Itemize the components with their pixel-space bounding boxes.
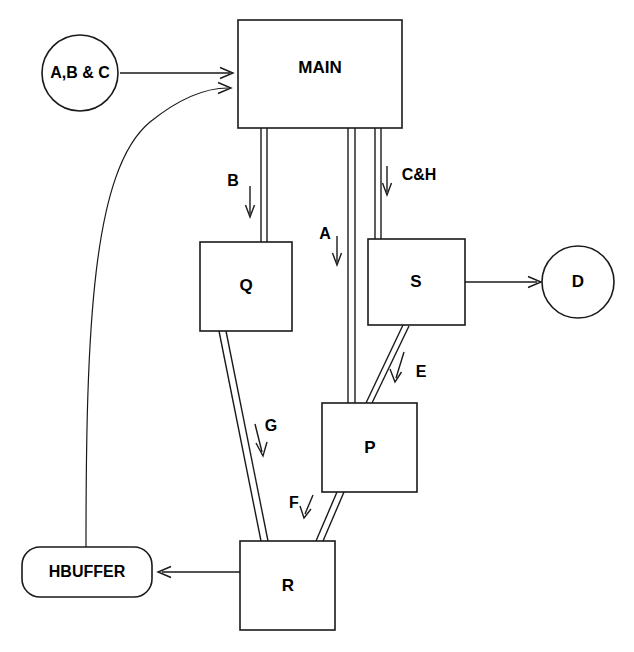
- edge-r-to-hbuffer: [158, 567, 240, 578]
- edge-label-a: A: [319, 225, 331, 242]
- edge-q-to-r: G: [219, 331, 277, 541]
- node-p-label: P: [364, 438, 375, 457]
- edge-main-to-s: C&H: [375, 128, 436, 239]
- edge-main-to-q: B: [227, 128, 267, 242]
- edge-s-to-d: [465, 277, 541, 288]
- node-main-label: MAIN: [298, 58, 341, 77]
- node-p[interactable]: P: [322, 403, 417, 492]
- node-abc[interactable]: A,B & C: [42, 35, 118, 111]
- edge-q-to-r-line-right: [226, 331, 268, 541]
- flowchart-canvas: B A C&H E: [0, 0, 634, 652]
- node-main[interactable]: MAIN: [238, 20, 402, 128]
- node-s[interactable]: S: [368, 239, 465, 325]
- edge-label-ch: C&H: [402, 166, 437, 183]
- flowchart-svg: B A C&H E: [0, 0, 634, 652]
- edge-s-to-p: E: [366, 325, 427, 403]
- edge-s-to-p-line-left: [366, 325, 403, 403]
- edge-s-to-p-direction-arrowhead: [390, 369, 402, 382]
- node-abc-label: A,B & C: [50, 64, 110, 81]
- node-r-label: R: [282, 576, 294, 595]
- edge-p-to-r: F: [289, 492, 344, 541]
- edge-main-to-p: A: [319, 128, 355, 403]
- node-hbuffer[interactable]: HBUFFER: [22, 547, 152, 597]
- edge-label-f: F: [289, 494, 299, 511]
- node-hbuffer-label: HBUFFER: [49, 563, 126, 580]
- edge-label-e: E: [416, 363, 427, 380]
- node-d-label: D: [572, 272, 584, 291]
- node-d[interactable]: D: [542, 246, 614, 318]
- edge-q-to-r-line-left: [219, 331, 261, 541]
- edge-s-to-p-line-right: [372, 326, 409, 403]
- edge-label-b: B: [227, 172, 239, 189]
- node-r[interactable]: R: [240, 541, 335, 630]
- edge-abc-to-main: [120, 68, 233, 79]
- node-s-label: S: [410, 272, 421, 291]
- node-q-label: Q: [239, 276, 252, 295]
- edge-label-g: G: [265, 417, 277, 434]
- node-q[interactable]: Q: [200, 242, 292, 331]
